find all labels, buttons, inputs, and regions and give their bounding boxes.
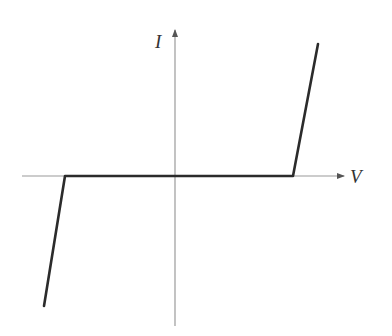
iv-curve	[44, 44, 318, 306]
iv-curve-diagram: I V	[0, 0, 392, 336]
y-axis-label: I	[154, 31, 163, 52]
x-axis-label: V	[350, 166, 364, 187]
